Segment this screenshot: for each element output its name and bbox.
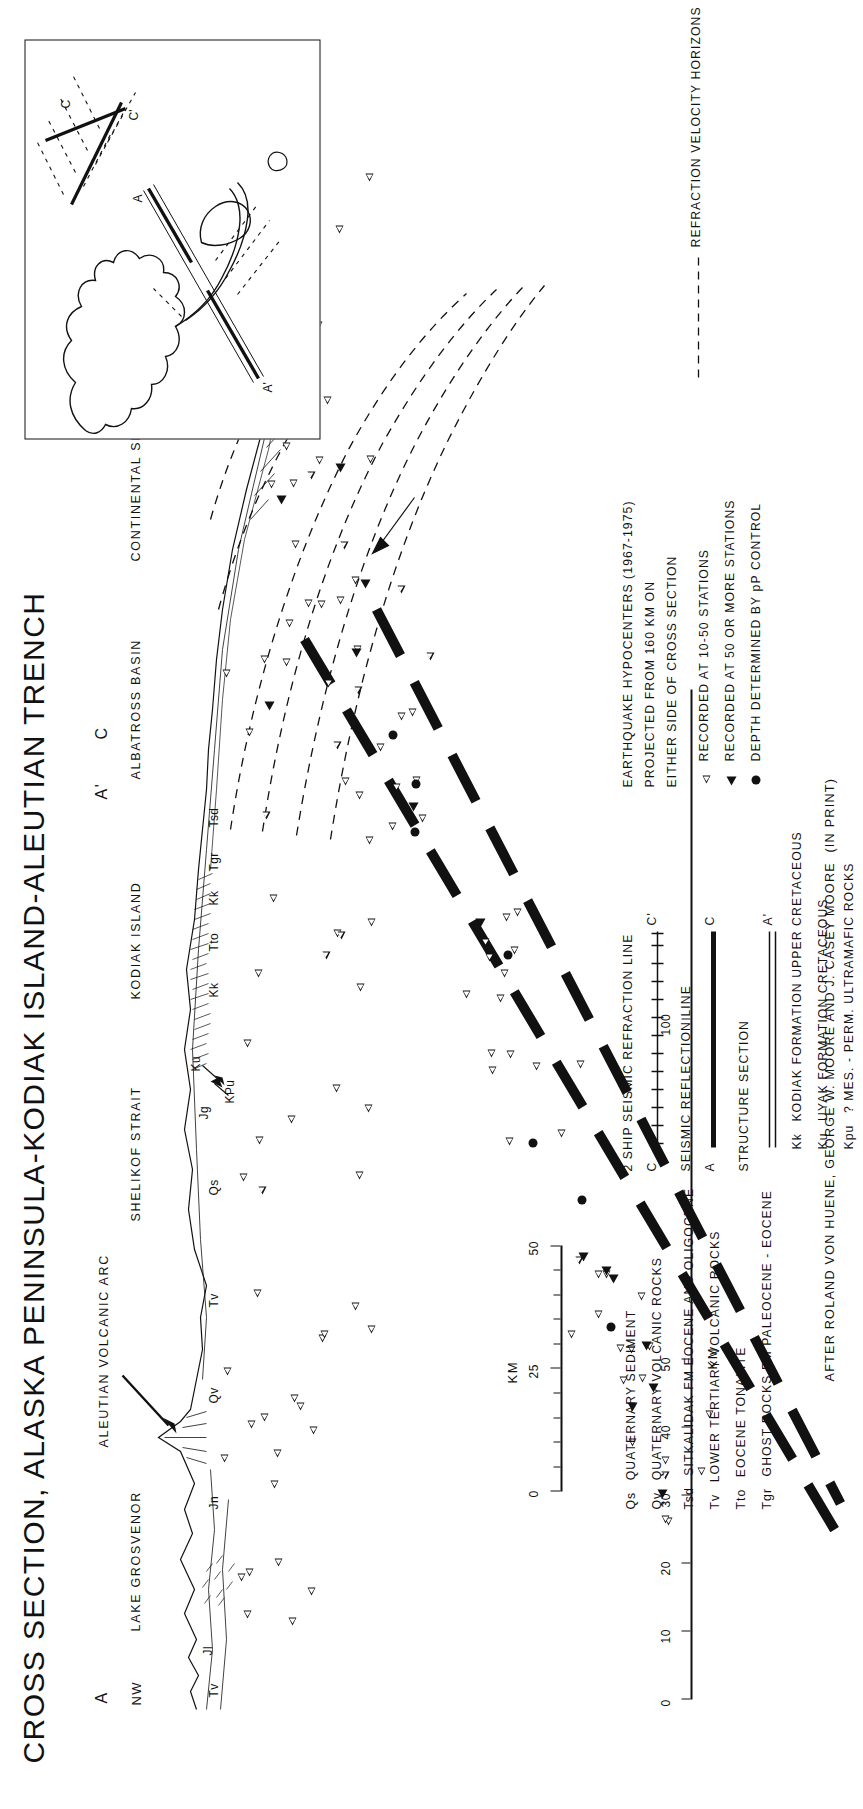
hypocenter-open-triangle [243, 1039, 251, 1047]
hypocenter-open-triangle [260, 655, 268, 663]
hypocenter-open-triangle [397, 712, 405, 720]
hypocenter-open-triangle [258, 1186, 266, 1194]
rock-unit-desc: QUATERNARY VOLCANIC ROCKS [649, 1257, 663, 1480]
hypocenter-open-triangle [307, 471, 315, 479]
rock-unit-row: Tsd SITKALIDAK FM EOCENE AND OLIGOCENE [678, 1187, 696, 1509]
hypocenter-open-triangle [274, 1558, 282, 1566]
legend-structure-section-label: STRUCTURE SECTION [736, 1020, 750, 1171]
hypocenter-open-triangle [315, 456, 323, 464]
hypocenter-open-triangle [320, 1330, 328, 1338]
hypocenter-open-triangle [355, 791, 363, 799]
hypocenter-open-triangle [291, 540, 299, 548]
hypocenter-open-triangle [273, 1449, 281, 1457]
hypocenter-filled-triangle [360, 579, 370, 588]
hypocenter-open-triangle [637, 1292, 645, 1300]
hypocenter-open-triangle [481, 938, 489, 946]
hypocenter-open-triangle [341, 777, 349, 785]
hypocenter-filled-circle [503, 950, 512, 959]
rock-unit-desc: GHOST ROCKS FM PALEOCENE - EOCENE [759, 1190, 773, 1476]
hypocenter-open-triangle [262, 811, 270, 819]
inset-line-label-c: C [58, 99, 72, 108]
hypocenter-open-triangle [532, 1062, 540, 1070]
hypocenter-open-triangle [367, 918, 375, 926]
rock-unit-desc: QUATERNARY SEDIMENT [623, 1309, 637, 1480]
rock-unit-desc: SITKALIDAK FM EOCENE AND OLIGOCENE [681, 1187, 695, 1475]
section-unit-code-jn: Jn [206, 1496, 220, 1509]
hypocenter-open-triangle [505, 1137, 513, 1145]
rock-unit-code: Qv [649, 1491, 663, 1509]
rock-unit-desc: LOWER TERTIARY VOLCANIC ROCKS [707, 1230, 721, 1482]
hypocenter-filled-triangle [351, 648, 361, 657]
hypocenter-open-triangle [245, 1568, 253, 1576]
distance-tick-25: 25 [526, 1363, 540, 1378]
hypocenter-open-triangle [317, 600, 325, 608]
hypocenter-legend-entry-2: RECORDED AT 50 OR MORE STATIONS [722, 499, 736, 761]
hypocenter-open-triangle [496, 994, 504, 1002]
hypocenter-open-triangle [332, 1084, 340, 1092]
hypocenter-open-triangle [661, 1515, 669, 1523]
legend-refraction-line-left-end: C [644, 1161, 658, 1171]
legend-reflection-line-label: SEISMIC REFLECTION LINE [678, 985, 692, 1171]
figure-plate: CROSS SECTION, ALASKA PENINSULA-KODIAK I… [0, 0, 863, 1809]
section-unit-code-tv-2: Tv [206, 1293, 220, 1307]
hypocenter-open-triangle [282, 442, 290, 450]
hypocenter-open-triangle [324, 679, 332, 687]
hypocenter-filled-triangle [578, 1252, 588, 1261]
section-end-label-c: C [92, 726, 110, 739]
hypocenter-open-triangle [336, 596, 344, 604]
rock-unit-row: Kk KODIAK FORMATION UPPER CRETACEOUS [786, 831, 804, 1149]
hypocenter-open-triangle [222, 670, 230, 678]
hypocenter-open-triangle [304, 599, 312, 607]
filled-triangle-icon [726, 776, 736, 785]
hypocenter-open-triangle [282, 658, 290, 666]
hypocenter-open-triangle [426, 652, 434, 660]
hypocenter-filled-triangle [335, 464, 345, 473]
hypocenter-open-triangle [364, 1104, 372, 1112]
hypocenter-open-triangle [254, 969, 262, 977]
legend-structure-section-end: A' [760, 912, 774, 925]
section-unit-code-kk-2: Kk [206, 890, 220, 905]
hypocenter-open-triangle [366, 455, 374, 463]
rock-unit-desc: KODIAK FORMATION UPPER CRETACEOUS [789, 831, 803, 1121]
section-direction-nw: NW [128, 1681, 143, 1705]
rock-unit-code: Tgr [759, 1487, 773, 1509]
unit-leader-arrows [196, 1039, 240, 1109]
rock-unit-row: Tv LOWER TERTIARY VOLCANIC ROCKS [704, 1230, 722, 1509]
rock-unit-row: Qv QUATERNARY VOLCANIC ROCKS [646, 1257, 664, 1509]
distance-axis-unit: KM [504, 1360, 519, 1383]
hypocenter-open-triangle [506, 1050, 514, 1058]
inset-map-graphic: A A' C C' [25, 40, 319, 438]
section-unit-code-tv-1: Tv [206, 1683, 220, 1697]
distance-tick-50: 50 [526, 1240, 540, 1255]
hypocenter-open-triangle [351, 1302, 359, 1310]
hypocenter-open-triangle [269, 894, 277, 902]
section-unit-code-qs: Qs [206, 1179, 220, 1195]
legend-refraction-line-label: 2 SHIP SEISMIC REFRACTION LINE [620, 933, 634, 1171]
hypocenter-open-triangle [307, 1587, 315, 1595]
section-unit-code-kk-1: Kk [206, 982, 220, 997]
hypocenter-open-triangle [223, 1367, 231, 1375]
hypocenter-open-triangle [365, 173, 373, 181]
page-title: CROSS SECTION, ALASKA PENINSULA-KODIAK I… [16, 591, 50, 1763]
section-end-label-a-prime: A' [92, 782, 110, 799]
hypocenter-open-triangle [351, 576, 359, 584]
legend-refraction-line-right-end: C' [644, 912, 658, 925]
section-unit-code-tgr: Tgr [206, 852, 220, 871]
hypocenter-open-triangle [239, 1173, 247, 1181]
credit-line: AFTER ROLAND VON HUENE, GEORGE W. MOORE … [822, 777, 836, 1381]
hypocenter-open-triangle [418, 814, 426, 822]
reflection-line-symbol-icon [708, 931, 718, 1147]
hypocenter-open-triangle [289, 480, 297, 488]
place-name-aleutian-volcanic-arc: ALEUTIAN VOLCANIC ARC [96, 1254, 110, 1447]
section-unit-code-qv: Qv [206, 1387, 220, 1403]
hypocenter-open-triangle [335, 225, 343, 233]
hypocenter-open-triangle [323, 397, 331, 405]
dashed-line-icon [694, 257, 702, 377]
open-triangle-icon [702, 775, 710, 783]
hypocenter-open-triangle [267, 480, 275, 488]
place-name-albatross-basin: ALBATROSS BASIN [128, 638, 142, 779]
depth-tick-10: 10 [658, 1628, 672, 1643]
rock-unit-row: Tto EOCENE TONALITE [730, 1346, 748, 1509]
hypocenter-open-triangle [355, 1172, 363, 1180]
distance-tick-0: 0 [526, 1490, 540, 1497]
